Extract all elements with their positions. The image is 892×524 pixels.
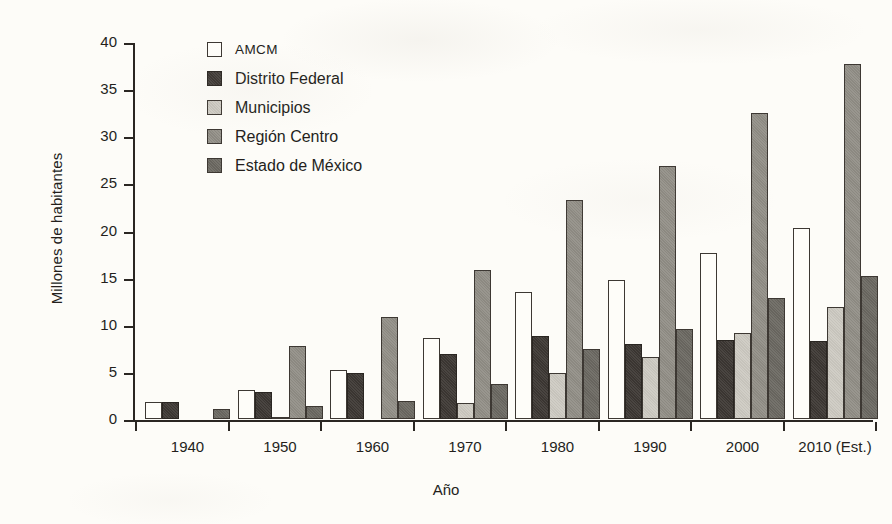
bar <box>734 333 751 419</box>
y-axis-tick-label: 35 <box>100 80 117 97</box>
bar <box>642 357 659 419</box>
x-axis-category-label: 2010 (Est.) <box>798 438 871 455</box>
bar-group <box>515 42 600 419</box>
bar <box>768 298 785 419</box>
bar <box>491 384 508 419</box>
legend-item-label: Estado de México <box>235 157 362 175</box>
x-axis-tick <box>135 422 137 431</box>
bar <box>793 228 810 419</box>
legend-item[interactable]: Municipios <box>207 93 362 122</box>
bar <box>676 329 693 419</box>
x-axis-tick <box>413 422 415 431</box>
y-axis-tick-label: 10 <box>100 316 117 333</box>
bar <box>827 307 844 419</box>
bar <box>272 417 289 419</box>
bar <box>306 406 323 419</box>
y-axis-tick-label: 5 <box>109 363 117 380</box>
legend-item[interactable]: Región Centro <box>207 122 362 151</box>
bar <box>861 276 878 419</box>
bar <box>608 280 625 419</box>
legend-item-label: Región Centro <box>235 128 338 146</box>
x-axis-category-label: 1950 <box>263 438 296 455</box>
bar <box>255 392 272 419</box>
x-axis-category-label: 1940 <box>171 438 204 455</box>
y-axis-tick: 10 <box>124 326 133 328</box>
y-axis-tick: 40 <box>124 43 133 45</box>
bar <box>515 292 532 419</box>
bar <box>145 402 162 419</box>
bar <box>625 344 642 419</box>
legend-swatch-municipios <box>207 100 222 115</box>
y-axis-tick-label: 15 <box>100 269 117 286</box>
y-axis-tick-label: 25 <box>100 174 117 191</box>
bar <box>583 349 600 419</box>
legend-swatch-estado-de-mexico <box>207 158 222 173</box>
y-axis-line <box>133 43 135 422</box>
legend-swatch-region-centro <box>207 129 222 144</box>
bar <box>330 370 347 419</box>
x-axis-tick <box>690 422 692 431</box>
bar <box>347 373 364 419</box>
bar <box>566 200 583 419</box>
bar <box>457 403 474 419</box>
bar <box>213 409 230 419</box>
bar <box>238 390 255 419</box>
x-axis-category-label: 2000 <box>726 438 759 455</box>
bar <box>474 270 491 419</box>
bar <box>659 166 676 419</box>
x-axis-line <box>133 420 873 422</box>
x-axis-tick <box>505 422 507 431</box>
y-axis-tick: 15 <box>124 279 133 281</box>
x-axis-tick <box>875 422 877 431</box>
bar <box>717 340 734 419</box>
bar <box>440 354 457 419</box>
chart-page: Millones de habitantes 0510152025303540 … <box>0 0 892 524</box>
y-axis-tick-label: 30 <box>100 127 117 144</box>
bar-group <box>700 42 785 419</box>
y-axis-tick-label: 0 <box>109 410 117 427</box>
y-axis-tick: 5 <box>124 373 133 375</box>
chart-legend: AMCMDistrito FederalMunicipiosRegión Cen… <box>207 35 362 180</box>
x-axis-tick <box>598 422 600 431</box>
x-axis-tick <box>228 422 230 431</box>
x-axis-category-label: 1990 <box>633 438 666 455</box>
y-axis-tick-label: 20 <box>100 222 117 239</box>
legend-item-label: Municipios <box>235 99 311 117</box>
bar <box>398 401 415 419</box>
y-axis-tick: 0 <box>124 420 133 422</box>
bar <box>810 341 827 419</box>
bar <box>162 402 179 419</box>
y-axis-tick: 20 <box>124 232 133 234</box>
bar <box>700 253 717 419</box>
bar <box>751 113 768 419</box>
bar <box>381 317 398 419</box>
legend-swatch-amcm <box>207 42 222 57</box>
bar-group <box>793 42 878 419</box>
x-axis-category-label: 1980 <box>541 438 574 455</box>
x-axis-tick <box>320 422 322 431</box>
x-axis-category-label: 1970 <box>448 438 481 455</box>
bar <box>423 338 440 419</box>
bar <box>844 64 861 419</box>
legend-item[interactable]: Distrito Federal <box>207 64 362 93</box>
bar-group <box>423 42 508 419</box>
y-axis-tick: 25 <box>124 184 133 186</box>
bar <box>532 336 549 419</box>
legend-swatch-distrito-federal <box>207 71 222 86</box>
y-axis-tick-label: 40 <box>100 33 117 50</box>
legend-item-label: Distrito Federal <box>235 70 343 88</box>
legend-item[interactable]: AMCM <box>207 35 362 64</box>
bar-group <box>608 42 693 419</box>
x-axis-title: Año <box>0 481 892 498</box>
x-axis-tick <box>783 422 785 431</box>
y-axis-tick: 30 <box>124 137 133 139</box>
x-axis-category-label: 1960 <box>356 438 389 455</box>
bar <box>549 373 566 419</box>
legend-item[interactable]: Estado de México <box>207 151 362 180</box>
legend-item-label: AMCM <box>235 42 278 57</box>
bar <box>289 346 306 420</box>
y-axis-title: Millones de habitantes <box>48 79 65 379</box>
y-axis-tick: 35 <box>124 90 133 92</box>
